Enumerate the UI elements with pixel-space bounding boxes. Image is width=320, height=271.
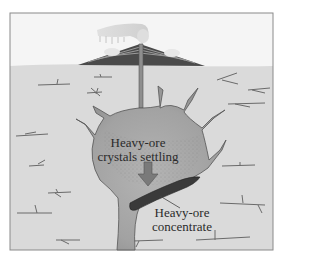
label-settling-line2: crystals settling xyxy=(92,150,184,164)
label-ore-concentrate: Heavy-ore concentrate xyxy=(147,206,217,234)
label-settling-line1: Heavy-ore xyxy=(92,136,184,150)
label-concentrate-line2: concentrate xyxy=(147,220,217,234)
conduit xyxy=(139,44,143,108)
label-crystals-settling: Heavy-ore crystals settling xyxy=(92,136,184,164)
label-concentrate-line1: Heavy-ore xyxy=(147,206,217,220)
